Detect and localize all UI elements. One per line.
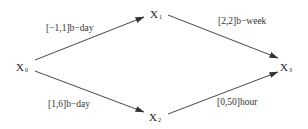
node-x2-sub: 2 [158, 117, 161, 123]
node-x0: X0 [16, 62, 28, 76]
node-x2-base: X [149, 111, 157, 123]
node-x0-sub: 0 [25, 67, 28, 73]
node-x1: X1 [150, 9, 162, 23]
node-x3-sub: 3 [289, 67, 292, 73]
edge-label-x0-x2: [1,6]b−day [48, 99, 90, 109]
node-x0-base: X [16, 61, 24, 73]
node-x2: X2 [149, 112, 161, 126]
node-x1-sub: 1 [159, 14, 162, 20]
node-x3-base: X [280, 61, 288, 73]
edge-label-x0-x1: [−1,1]b−day [46, 23, 93, 33]
node-x1-base: X [150, 8, 158, 20]
edge-label-x2-x3: [0,50]hour [217, 97, 257, 107]
edge-label-x1-x3: [2,2]b−week [218, 16, 266, 26]
node-x3: X3 [280, 62, 292, 76]
edge-x2-x3 [168, 72, 278, 114]
